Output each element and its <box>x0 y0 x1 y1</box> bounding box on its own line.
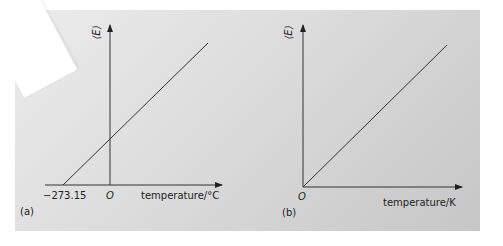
data-line-a <box>63 43 208 185</box>
y-axis-label-a: ⟨E⟩ <box>91 25 102 39</box>
x-axis-label-b: temperature/K <box>383 197 456 208</box>
x-tick-label-origin-b: O <box>298 191 306 202</box>
panel-a <box>45 25 222 185</box>
y-axis-label-b: ⟨E⟩ <box>283 25 294 39</box>
panel-label-a: (a) <box>20 206 34 217</box>
data-line-b <box>303 45 447 187</box>
panel-b <box>303 25 462 187</box>
x-tick-label-origin-a: O <box>106 190 114 201</box>
chart-svg <box>0 0 503 246</box>
x-axis-label-a: temperature/°C <box>141 190 219 201</box>
x-tick-label-neg: −273.15 <box>43 190 86 201</box>
panel-label-b: (b) <box>282 207 296 218</box>
